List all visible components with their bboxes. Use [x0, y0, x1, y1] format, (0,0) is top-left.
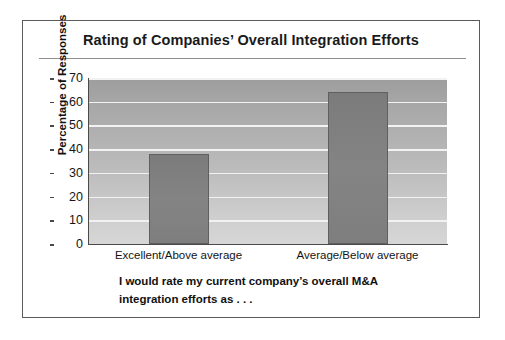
- y-axis-tick-mark: [50, 173, 54, 175]
- y-axis-tick-mark: [50, 244, 54, 246]
- gridline: [89, 102, 447, 104]
- bar: [328, 92, 388, 244]
- chart-figure: Rating of Companies’ Overall Integration…: [22, 20, 480, 318]
- y-axis-tick-label: 30: [57, 166, 83, 180]
- chart-caption: I would rate my current company’s overal…: [119, 273, 449, 309]
- y-axis-tick-mark: [50, 102, 54, 104]
- y-axis-tick-label: 10: [57, 213, 83, 227]
- gridline: [89, 78, 447, 80]
- y-axis-tick-mark: [50, 197, 54, 199]
- plot-area: [89, 78, 447, 244]
- y-axis-tick-mark: [50, 125, 54, 127]
- caption-line-2: integration efforts as . . .: [119, 291, 449, 309]
- gridline: [89, 149, 447, 151]
- x-axis-category-label: Excellent/Above average: [79, 249, 279, 261]
- bar: [149, 154, 209, 244]
- y-axis-tick-label: 20: [57, 190, 83, 204]
- x-axis-category-label: Average/Below average: [258, 249, 458, 261]
- gridline: [89, 125, 447, 127]
- y-axis-tick-labels: 010203040506070: [53, 78, 83, 244]
- y-axis-tick-mark: [50, 149, 54, 151]
- gridline: [89, 220, 447, 222]
- gridline: [89, 173, 447, 175]
- y-axis-tick-label: 60: [57, 95, 83, 109]
- title-divider: [39, 58, 466, 59]
- plot-wrapper: [89, 78, 447, 244]
- caption-line-1: I would rate my current company’s overal…: [119, 273, 449, 291]
- y-axis-tick-mark: [50, 78, 54, 80]
- y-axis-tick-label: 50: [57, 118, 83, 132]
- gridline: [89, 197, 447, 199]
- y-axis-tick-label: 40: [57, 142, 83, 156]
- y-axis-tick-mark: [50, 220, 54, 222]
- y-axis-tick-label: 70: [57, 71, 83, 85]
- chart-title: Rating of Companies’ Overall Integration…: [23, 32, 479, 48]
